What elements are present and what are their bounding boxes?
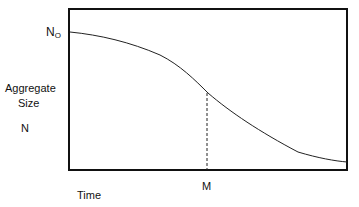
x-marker-label: M	[202, 180, 211, 192]
n0-subscript: O	[55, 31, 61, 40]
n0-label: NO	[46, 26, 61, 42]
x-axis-label: Time	[77, 189, 101, 201]
y-axis-label-aggregate: Aggregate	[5, 82, 56, 94]
y-axis-label-size: Size	[18, 97, 39, 109]
n0-main: N	[46, 25, 55, 39]
plot-frame	[69, 9, 347, 170]
decay-curve	[70, 32, 347, 162]
y-axis-label-n: N	[21, 122, 29, 134]
